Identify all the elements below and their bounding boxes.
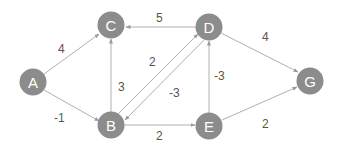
- edge-B-E: 2: [124, 125, 195, 143]
- edge-D-B: -3: [125, 40, 204, 120]
- node-D: D: [196, 14, 223, 41]
- node-C: C: [98, 12, 125, 39]
- node-label: B: [106, 117, 116, 134]
- edge-weight: -3: [214, 69, 225, 83]
- graph-diagram: 4 -1 3 2 -3 5 -3 2 4 2 A C: [0, 0, 341, 150]
- edge-B-D: 2: [118, 34, 198, 114]
- node-label: C: [106, 17, 117, 34]
- node-label: A: [28, 74, 38, 91]
- node-G: G: [297, 68, 324, 95]
- node-label: D: [204, 19, 215, 36]
- edge-weight: 4: [58, 42, 65, 56]
- edge-A-C: 4: [44, 34, 99, 74]
- edge-weight: -1: [54, 111, 65, 125]
- node-label: E: [204, 118, 214, 135]
- edge-weight: 4: [262, 30, 269, 44]
- edge-weight: 2: [149, 55, 156, 69]
- edge-A-B: -1: [44, 90, 99, 125]
- edge-E-D: -3: [209, 41, 225, 113]
- edge-E-G: 2: [222, 87, 297, 131]
- edge-weight: 2: [262, 117, 269, 131]
- node-A: A: [20, 69, 47, 96]
- edge-weight: 2: [156, 129, 163, 143]
- edge-weight: 5: [156, 11, 163, 25]
- edge-D-C: 5: [126, 11, 196, 27]
- edge-weight: 3: [118, 80, 125, 94]
- edge-weight: -3: [169, 86, 180, 100]
- node-B: B: [98, 112, 125, 139]
- node-E: E: [196, 113, 223, 140]
- edge-D-G: 4: [221, 30, 298, 72]
- node-label: G: [304, 73, 316, 90]
- edge-B-C: 3: [111, 39, 125, 112]
